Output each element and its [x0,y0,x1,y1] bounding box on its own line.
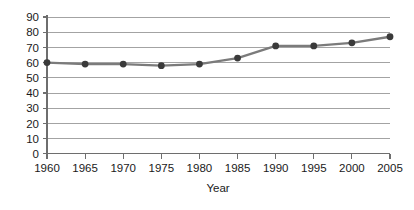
y-tick-label-10: 10 [26,133,39,145]
y-tick-label-90: 90 [26,11,39,23]
x-tick-label-1995: 1995 [301,162,327,174]
y-tick-label-40: 40 [26,87,39,99]
data-point-1965 [82,61,89,68]
x-tick-label-1960: 1960 [34,162,60,174]
x-tick-label-1965: 1965 [72,162,98,174]
x-tick-label-1990: 1990 [263,162,289,174]
y-tick-label-20: 20 [26,118,39,130]
data-point-2000 [348,39,355,46]
y-tick-label-30: 30 [26,102,39,114]
chart-canvas: 90 80 70 60 50 40 30 20 10 0 1960 [0,0,414,210]
data-point-1985 [234,55,241,62]
x-axis-title: Year [206,182,229,194]
data-point-1975 [158,62,165,69]
x-tick-label-2000: 2000 [339,162,365,174]
data-point-1970 [120,61,127,68]
y-tick-labels: 90 80 70 60 50 40 30 20 10 0 [26,11,39,160]
data-point-1995 [310,42,317,49]
data-point-1980 [196,61,203,68]
x-tick-label-1975: 1975 [149,162,175,174]
data-point-1990 [272,42,279,49]
x-tick-label-1985: 1985 [225,162,251,174]
x-tick-label-1970: 1970 [110,162,136,174]
data-series [44,33,394,69]
y-tick-marks [43,17,47,154]
series-line-path [47,37,390,66]
x-tick-label-1980: 1980 [187,162,213,174]
line-chart: 90 80 70 60 50 40 30 20 10 0 1960 [0,0,414,210]
data-point-2005 [387,33,394,40]
y-tick-label-0: 0 [33,148,39,160]
y-tick-label-80: 80 [26,26,39,38]
x-tick-labels: 1960 1965 1970 1975 1980 1985 1990 1995 … [34,162,403,174]
y-tick-label-70: 70 [26,42,39,54]
y-tick-label-50: 50 [26,72,39,84]
y-tick-label-60: 60 [26,57,39,69]
y-gridlines [47,17,390,139]
x-tick-label-2005: 2005 [377,162,403,174]
data-point-1960 [44,59,51,66]
x-tick-marks [47,154,390,159]
